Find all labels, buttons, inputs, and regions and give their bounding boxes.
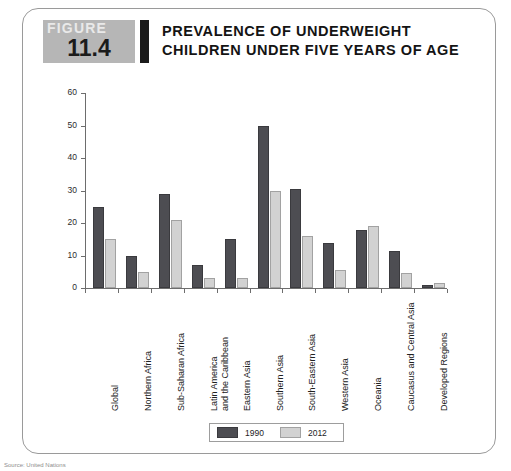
x-axis-label: Southern Asia xyxy=(275,293,286,411)
x-axis-line xyxy=(85,288,447,289)
y-axis-tick: 30 xyxy=(54,191,85,192)
x-axis-label: Global xyxy=(110,293,121,411)
x-axis-label: Caucasus and Central Asia xyxy=(406,293,417,411)
x-axis-labels: GlobalNorthern AfricaSub-Saharan AfricaL… xyxy=(85,293,447,411)
y-axis-tick-label: 10 xyxy=(68,250,77,260)
x-axis-label: Developed Regions xyxy=(439,293,450,411)
bar-2012 xyxy=(237,278,248,288)
x-axis-label: Oceania xyxy=(373,293,384,411)
bar-2012 xyxy=(204,278,215,288)
y-axis-tick-label: 30 xyxy=(68,185,77,195)
legend-swatch-1990 xyxy=(217,427,238,438)
y-axis-tick-label: 60 xyxy=(68,87,77,97)
y-axis-tick-label: 40 xyxy=(68,152,77,162)
chart-plot-area: 0102030405060 xyxy=(85,93,447,289)
figure-card: FIGURE 11.4 PREVALENCE OF UNDERWEIGHT CH… xyxy=(22,8,496,454)
y-axis-tick-mark xyxy=(81,223,85,224)
y-axis-tick: 60 xyxy=(54,93,85,94)
y-axis-tick-mark xyxy=(81,191,85,192)
bar-2012 xyxy=(335,270,346,288)
x-axis-label: Eastern Asia xyxy=(242,293,253,411)
legend-label-1990: 1990 xyxy=(245,428,264,438)
bar-1990 xyxy=(422,285,433,288)
y-axis-tick-mark xyxy=(81,126,85,127)
bar-1990 xyxy=(356,230,367,289)
bar-1990 xyxy=(258,126,269,289)
bar-2012 xyxy=(105,239,116,288)
bar-1990 xyxy=(290,189,301,288)
y-axis-tick-label: 50 xyxy=(68,120,77,130)
bar-1990 xyxy=(192,265,203,288)
bar-1990 xyxy=(389,251,400,288)
bar-2012 xyxy=(302,236,313,288)
x-axis-label: Northern Africa xyxy=(143,293,154,411)
bar-1990 xyxy=(225,239,236,288)
figure-badge-number: 11.4 xyxy=(43,35,135,61)
bar-1990 xyxy=(126,256,137,289)
x-axis-label: Latin America and the Caribbean xyxy=(209,293,230,411)
bar-1990 xyxy=(93,207,104,288)
figure-header: FIGURE 11.4 PREVALENCE OF UNDERWEIGHT CH… xyxy=(43,20,481,68)
legend-swatch-2012 xyxy=(280,427,301,438)
y-axis-tick: 10 xyxy=(54,256,85,257)
legend-label-2012: 2012 xyxy=(308,428,327,438)
figure-badge-accent-bar xyxy=(140,20,149,63)
figure-badge: FIGURE 11.4 xyxy=(43,20,135,63)
bar-2012 xyxy=(434,283,445,288)
y-axis-tick-label: 0 xyxy=(72,282,77,292)
y-axis-tick: 50 xyxy=(54,126,85,127)
x-axis-label: Sub-Saharan Africa xyxy=(176,293,187,411)
bar-1990 xyxy=(323,243,334,289)
y-axis-tick: 0 xyxy=(54,288,85,289)
bar-2012 xyxy=(270,191,281,289)
y-axis-tick-mark xyxy=(81,93,85,94)
y-axis-tick: 40 xyxy=(54,158,85,159)
figure-title: PREVALENCE OF UNDERWEIGHT CHILDREN UNDER… xyxy=(162,22,481,60)
y-axis-tick-mark xyxy=(81,256,85,257)
bar-1990 xyxy=(159,194,170,288)
chart-legend: 1990 2012 xyxy=(209,423,344,442)
y-axis-tick-label: 20 xyxy=(68,217,77,227)
y-axis-tick: 20 xyxy=(54,223,85,224)
y-axis-line xyxy=(85,93,86,289)
bar-2012 xyxy=(401,273,412,288)
source-note: Source: United Nations xyxy=(4,462,66,468)
x-axis-label: South-Eastern Asia xyxy=(307,293,318,411)
y-axis-tick-mark xyxy=(81,158,85,159)
bar-2012 xyxy=(171,220,182,288)
figure-badge-word: FIGURE xyxy=(47,21,131,36)
bar-2012 xyxy=(368,226,379,288)
bar-2012 xyxy=(138,272,149,288)
x-axis-label: Western Asia xyxy=(340,293,351,411)
